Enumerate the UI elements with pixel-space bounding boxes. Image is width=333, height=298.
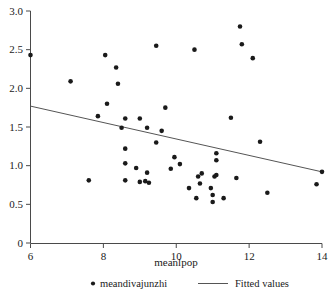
legend-item-label-scatter: meandivajunzhi: [100, 278, 167, 289]
data-point: [240, 42, 245, 47]
y-tick-group: [26, 11, 31, 243]
data-point: [210, 200, 215, 205]
data-point: [234, 176, 239, 181]
fitted-line: [31, 106, 323, 172]
data-point: [154, 140, 159, 145]
data-point: [116, 81, 121, 86]
data-point: [199, 171, 204, 176]
x-tick-label-3: 12: [244, 250, 255, 262]
data-point: [119, 125, 124, 130]
data-point: [159, 129, 164, 134]
data-point: [196, 174, 201, 179]
y-tick-label-3: 1.5: [9, 121, 23, 133]
data-point: [238, 24, 243, 29]
data-point-group: [28, 24, 324, 204]
y-tick-label-4: 2.0: [9, 82, 23, 94]
data-point: [103, 53, 108, 58]
scatter-chart: 00.51.01.52.02.53.0 68101214 meanlpop me…: [0, 0, 333, 298]
data-point: [314, 182, 319, 187]
data-point: [229, 115, 234, 120]
y-tick-label-group: 00.51.01.52.02.53.0: [9, 5, 23, 249]
legend-item-label-fit: Fitted values: [235, 278, 289, 289]
plot-canvas: 00.51.01.52.02.53.0 68101214 meanlpop me…: [0, 0, 333, 298]
data-point: [123, 116, 128, 121]
x-tick-label-0: 6: [28, 250, 34, 262]
data-point: [258, 139, 263, 144]
y-tick-label-5: 2.5: [9, 43, 23, 55]
y-tick-label-2: 1.0: [9, 159, 23, 171]
data-point: [214, 158, 219, 163]
data-point: [87, 178, 92, 183]
data-point: [178, 162, 183, 167]
data-point: [250, 56, 255, 61]
fitted-values-line: [31, 106, 323, 172]
data-point: [168, 166, 173, 171]
data-point: [320, 170, 325, 175]
y-axis: 00.51.01.52.02.53.0: [9, 5, 30, 249]
data-point: [134, 166, 139, 171]
x-axis-title: meanlpop: [154, 256, 198, 268]
data-point: [138, 116, 143, 121]
data-point: [221, 196, 226, 201]
data-point: [209, 186, 214, 191]
data-point: [172, 155, 177, 160]
x-tick-group: [31, 244, 323, 249]
data-point: [194, 196, 199, 201]
data-point: [214, 173, 219, 178]
data-point: [192, 47, 197, 52]
data-point: [145, 170, 150, 175]
data-point: [187, 186, 192, 191]
data-point: [28, 53, 33, 58]
data-point: [105, 102, 110, 107]
data-point: [198, 181, 203, 186]
data-point: [163, 105, 168, 110]
y-tick-label-1: 0.5: [9, 198, 23, 210]
data-point: [210, 193, 215, 198]
data-point: [147, 180, 152, 185]
data-point: [123, 161, 128, 166]
data-point: [68, 79, 73, 84]
y-tick-label-6: 3.0: [9, 5, 23, 17]
data-point: [123, 146, 128, 151]
legend-dot-icon: [91, 281, 95, 285]
data-point: [214, 151, 219, 156]
data-point: [265, 190, 270, 195]
x-tick-label-4: 14: [317, 250, 329, 262]
data-point: [96, 114, 101, 119]
legend: meandivajunzhi Fitted values: [91, 278, 289, 289]
data-point: [154, 44, 159, 49]
data-point: [123, 178, 128, 183]
data-point: [114, 65, 119, 70]
x-tick-label-1: 8: [101, 250, 107, 262]
y-tick-label-0: 0: [18, 237, 24, 249]
data-point: [138, 180, 143, 185]
data-point: [145, 125, 150, 130]
